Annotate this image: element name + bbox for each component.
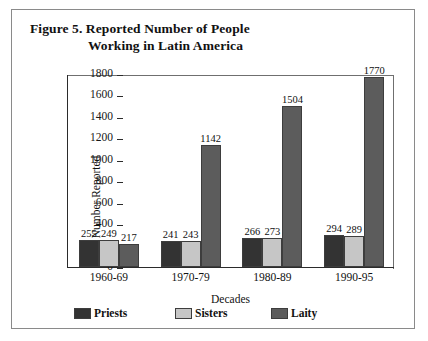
bar-laity-1970-79[interactable]: 1142	[201, 145, 221, 267]
legend-label: Sisters	[195, 308, 228, 319]
legend-item-priests[interactable]: Priests	[74, 308, 127, 319]
x-axis-category-label: 1980-89	[232, 271, 312, 283]
x-axis-title: Decades	[67, 293, 394, 305]
bar-priests-1980-89[interactable]: 266	[242, 238, 262, 267]
legend-swatch-sisters	[175, 308, 192, 319]
legend-item-laity[interactable]: Laity	[271, 308, 317, 319]
y-axis-tick-mark	[117, 268, 123, 269]
bar-sisters-1970-79[interactable]: 243	[181, 241, 201, 267]
legend-label: Laity	[291, 308, 317, 319]
legend-item-sisters[interactable]: Sisters	[175, 308, 228, 319]
bar-value-label: 1142	[200, 133, 221, 144]
bar-priests-1970-79[interactable]: 241	[161, 241, 181, 267]
legend-swatch-priests	[74, 308, 91, 319]
bar-group: 255249217	[79, 74, 139, 267]
chart-plot-wrapper: Number Reported 180016001400120010008006…	[12, 10, 416, 330]
x-axis-category-label: 1990-95	[314, 271, 394, 283]
legend-label: Priests	[94, 308, 127, 319]
bar-value-label: 1770	[364, 65, 385, 76]
x-axis-category-label: 1970-79	[151, 271, 231, 283]
plot-area: Number Reported 180016001400120010008006…	[67, 75, 394, 268]
bar-value-label: 1504	[282, 94, 303, 105]
figure-frame: Figure 5. Reported Number of People Work…	[11, 9, 415, 329]
x-axis-category-label: 1960-69	[69, 271, 149, 283]
legend-swatch-laity	[271, 308, 288, 319]
bar-value-label: 243	[183, 229, 199, 240]
bar-value-label: 217	[121, 232, 137, 243]
bar-sisters-1960-69[interactable]: 249	[99, 240, 119, 267]
bar-group: 2942891770	[324, 74, 384, 267]
chart-legend: PriestsSistersLaity	[62, 308, 382, 324]
bar-laity-1980-89[interactable]: 1504	[282, 106, 302, 267]
bar-laity-1960-69[interactable]: 217	[119, 244, 139, 267]
bar-value-label: 249	[101, 228, 117, 239]
bar-value-label: 273	[265, 226, 281, 237]
bar-group: 2662731504	[242, 74, 302, 267]
bar-value-label: 255	[81, 228, 97, 239]
bar-group: 2412431142	[161, 74, 221, 267]
bar-sisters-1990-95[interactable]: 289	[344, 236, 364, 267]
bar-value-label: 266	[245, 226, 261, 237]
bar-value-label: 241	[163, 229, 179, 240]
bar-priests-1990-95[interactable]: 294	[324, 235, 344, 267]
bar-value-label: 294	[326, 223, 342, 234]
bar-value-label: 289	[346, 224, 362, 235]
bar-sisters-1980-89[interactable]: 273	[262, 238, 282, 267]
bar-laity-1990-95[interactable]: 1770	[364, 77, 384, 267]
bar-priests-1960-69[interactable]: 255	[79, 240, 99, 267]
